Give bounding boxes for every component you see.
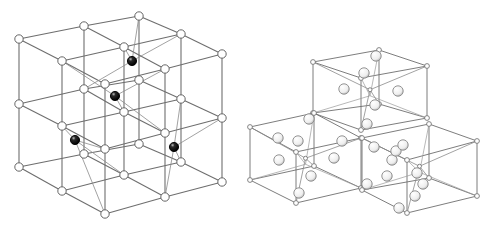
lattice-node bbox=[218, 178, 226, 186]
lattice-node bbox=[425, 116, 430, 121]
lattice-node bbox=[135, 140, 143, 148]
lattice-node bbox=[161, 65, 169, 73]
light-atom bbox=[369, 142, 379, 152]
bond-line bbox=[165, 118, 222, 133]
lattice-node bbox=[161, 193, 169, 201]
bond-line bbox=[105, 133, 165, 149]
bond-line bbox=[62, 47, 124, 61]
bond-line bbox=[174, 99, 181, 147]
light-atom bbox=[306, 171, 316, 181]
lattice-node bbox=[101, 80, 109, 88]
lattice-node bbox=[218, 114, 226, 122]
light-atom bbox=[337, 136, 347, 146]
lattice-node bbox=[425, 64, 430, 69]
lattice-node bbox=[120, 108, 128, 116]
lattice-node bbox=[359, 128, 364, 133]
bond-line bbox=[181, 99, 222, 118]
lattice-node bbox=[218, 50, 226, 58]
bond-line bbox=[139, 80, 181, 99]
lattice-node bbox=[101, 145, 109, 153]
light-atom bbox=[418, 179, 428, 189]
light-atom bbox=[382, 171, 392, 181]
bond-line bbox=[84, 154, 124, 175]
lattice-node bbox=[135, 12, 143, 20]
bond-line bbox=[420, 141, 478, 166]
bond-line bbox=[181, 162, 222, 182]
lattice-node bbox=[248, 178, 253, 183]
bond-line bbox=[314, 113, 361, 138]
bond-line bbox=[62, 175, 124, 191]
bond-line bbox=[19, 167, 62, 191]
bond-line bbox=[165, 54, 222, 69]
lattice-node bbox=[120, 43, 128, 51]
bond-line bbox=[250, 166, 314, 180]
bond-line bbox=[19, 89, 84, 104]
bond-line bbox=[313, 62, 361, 78]
light-atom bbox=[370, 100, 380, 110]
lattice-node bbox=[427, 122, 432, 127]
bond-line bbox=[296, 188, 361, 203]
lattice-node bbox=[135, 76, 143, 84]
light-atom bbox=[274, 155, 284, 165]
bond-line bbox=[250, 164, 306, 180]
bond-line bbox=[407, 141, 477, 160]
lattice-node bbox=[248, 125, 253, 130]
bond-line bbox=[379, 104, 427, 118]
light-atom bbox=[362, 119, 372, 129]
bond-line bbox=[250, 180, 296, 203]
lattice-node bbox=[80, 22, 88, 30]
light-atom bbox=[304, 114, 314, 124]
bond-line bbox=[84, 26, 124, 47]
bond-line bbox=[313, 50, 379, 62]
lattice-canvas bbox=[0, 0, 492, 227]
bond-line bbox=[361, 78, 370, 96]
light-atom bbox=[410, 191, 420, 201]
center-node bbox=[368, 88, 372, 92]
bond-line bbox=[165, 182, 222, 197]
bond-line bbox=[124, 162, 181, 175]
bond-line bbox=[429, 124, 477, 141]
bond-line bbox=[181, 34, 222, 54]
lattice-node bbox=[294, 150, 299, 155]
lattice-node bbox=[475, 194, 480, 199]
lattice-node bbox=[161, 129, 169, 137]
light-atom bbox=[393, 86, 403, 96]
bond-line bbox=[84, 16, 139, 26]
dark-atom bbox=[110, 91, 119, 100]
light-atom bbox=[293, 136, 303, 146]
lattice-node bbox=[405, 211, 410, 216]
lattice-node bbox=[177, 30, 185, 38]
center-node bbox=[304, 156, 308, 160]
light-atom bbox=[273, 133, 283, 143]
bond-line bbox=[105, 197, 165, 214]
crystal-lattice-figure bbox=[0, 0, 492, 227]
lattice-node bbox=[311, 60, 316, 65]
lattice-node bbox=[58, 187, 66, 195]
bond-line bbox=[124, 112, 165, 133]
bond-line bbox=[62, 112, 124, 126]
dark-atom bbox=[127, 56, 136, 65]
right-diamond-lattice bbox=[248, 48, 480, 216]
light-atom bbox=[359, 68, 369, 78]
lattice-node bbox=[427, 176, 432, 181]
bond-line bbox=[165, 147, 174, 197]
bond-line bbox=[379, 50, 427, 66]
light-atom bbox=[362, 179, 372, 189]
lattice-node bbox=[177, 158, 185, 166]
lattice-node bbox=[80, 85, 88, 93]
lattice-node bbox=[58, 57, 66, 65]
light-atom bbox=[371, 51, 381, 61]
light-atom bbox=[339, 84, 349, 94]
lattice-node bbox=[312, 164, 317, 169]
light-atom bbox=[394, 203, 404, 213]
light-atom bbox=[329, 153, 339, 163]
bond-line bbox=[19, 104, 62, 126]
bond-line bbox=[361, 66, 427, 78]
bond-line bbox=[139, 16, 181, 34]
lattice-node bbox=[294, 201, 299, 206]
dark-atom bbox=[70, 135, 79, 144]
bond-line bbox=[124, 99, 181, 112]
lattice-node bbox=[120, 171, 128, 179]
bond-line bbox=[19, 39, 62, 61]
lattice-node bbox=[15, 100, 23, 108]
